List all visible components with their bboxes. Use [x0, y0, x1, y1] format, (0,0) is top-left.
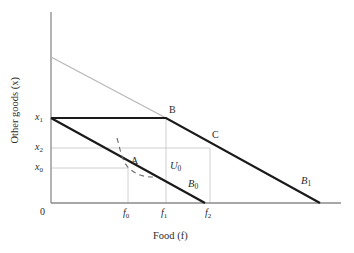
- origin-label: 0: [40, 207, 45, 217]
- plot-area: [0, 0, 354, 253]
- curve-label-u0: U0: [170, 161, 181, 172]
- figure-canvas: Other goods (x) Food (f) 0 x1 x2 x0 f0 f…: [0, 0, 354, 253]
- budget-line-b1: [51, 118, 320, 203]
- x-tick-f0: f0: [123, 208, 129, 220]
- x-tick-f2: f2: [205, 208, 211, 220]
- x-tick-f1: f1: [161, 208, 167, 220]
- y-tick-x1: x1: [35, 112, 43, 124]
- gray-extension-line: [51, 57, 166, 118]
- y-tick-x0: x0: [35, 162, 43, 174]
- curve-label-b0: B0: [188, 179, 198, 190]
- x-axis-title: Food (f): [153, 231, 188, 242]
- curve-label-b1: B1: [301, 176, 311, 187]
- point-label-c: C: [212, 130, 219, 140]
- y-tick-x2: x2: [35, 142, 43, 154]
- y-axis-title: Other goods (x): [10, 64, 21, 156]
- axes-lines: [51, 12, 341, 203]
- point-label-b: B: [169, 105, 176, 115]
- point-label-a: A: [131, 156, 138, 166]
